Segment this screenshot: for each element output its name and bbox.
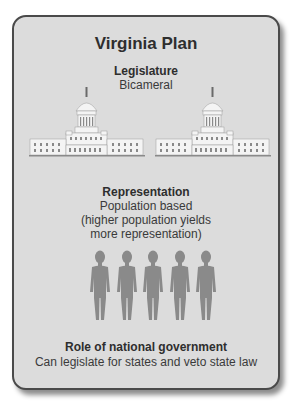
representation-body-line-2: (higher population yields bbox=[14, 213, 278, 228]
person-silhouette-icon bbox=[89, 250, 111, 324]
person-silhouette-icon bbox=[195, 250, 217, 324]
virginia-plan-card: Virginia Plan Legislature Bicameral bbox=[12, 15, 280, 390]
person-silhouette-icon bbox=[142, 250, 164, 324]
capitol-building-icon bbox=[28, 87, 146, 159]
legislature-heading: Legislature bbox=[14, 64, 278, 78]
role-heading: Role of national government bbox=[14, 340, 278, 354]
person-silhouette-icon bbox=[169, 250, 191, 324]
representation-body-line-3: more representation) bbox=[14, 227, 278, 242]
person-silhouette-icon bbox=[116, 250, 138, 324]
population-figures bbox=[89, 250, 217, 324]
role-body: Can legislate for states and veto state … bbox=[14, 355, 278, 370]
capitol-building-icon bbox=[154, 87, 272, 159]
representation-body-line-1: Population based bbox=[14, 199, 278, 214]
representation-heading: Representation bbox=[14, 185, 278, 199]
card-title: Virginia Plan bbox=[14, 34, 278, 54]
